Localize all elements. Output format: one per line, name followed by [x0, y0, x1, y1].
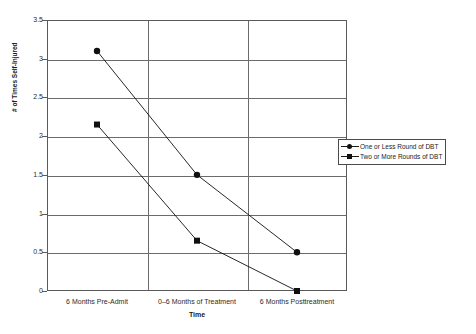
y-tick-label: 3.5	[3, 16, 43, 24]
data-point-circle	[94, 48, 100, 54]
legend-marker-circle-icon	[341, 142, 359, 152]
x-tick-label: 0–6 Months of Treatment	[158, 297, 236, 306]
y-tick-label: 2.5	[3, 93, 43, 101]
legend-item-label: One or Less Round of DBT	[359, 142, 438, 152]
data-point-square	[94, 122, 100, 128]
y-tick-label: 1.5	[3, 171, 43, 179]
data-point-circle	[194, 172, 200, 178]
y-tick-label: 2	[3, 132, 43, 140]
x-axis-title: Time	[47, 311, 347, 318]
y-tick-label: 3	[3, 55, 43, 63]
series-line	[97, 51, 297, 252]
y-tick-label: 0.5	[3, 248, 43, 256]
legend: One or Less Round of DBT Two or More Rou…	[338, 139, 446, 165]
line-chart: # of Times Self-Injured 00.511.522.533.5…	[0, 0, 476, 334]
legend-item: One or Less Round of DBT	[341, 142, 442, 152]
y-tick-mark	[42, 291, 47, 292]
data-point-circle	[294, 249, 300, 255]
series-layer	[47, 20, 347, 291]
y-tick-label: 1	[3, 210, 43, 218]
y-tick-label: 0	[3, 287, 43, 295]
legend-item-label: Two or More Rounds of DBT	[359, 152, 442, 162]
data-point-square	[194, 238, 200, 244]
x-axis: 6 Months Pre-Admit0–6 Months of Treatmen…	[47, 297, 347, 311]
series-line	[97, 125, 297, 291]
legend-marker-square-icon	[341, 152, 359, 162]
x-tick-label: 6 Months Pre-Admit	[66, 297, 128, 306]
data-point-square	[294, 288, 300, 294]
y-axis: 00.511.522.533.5	[0, 20, 43, 291]
legend-item: Two or More Rounds of DBT	[341, 152, 442, 162]
x-tick-label: 6 Months Posttreatment	[260, 297, 334, 306]
